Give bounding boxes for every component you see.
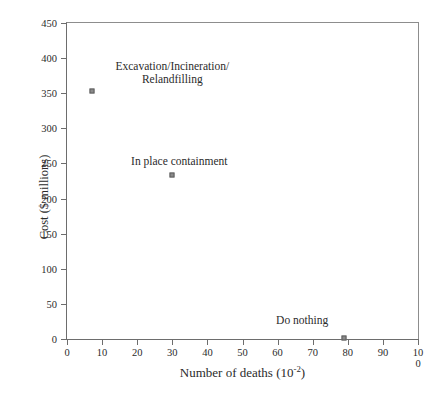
x-tick-mark xyxy=(102,339,103,345)
y-tick-mark: 150 xyxy=(61,234,67,235)
y-tick-label: 150 xyxy=(41,229,57,240)
x-tick-mark xyxy=(207,339,208,345)
x-axis-title-suffix: ) xyxy=(301,365,305,380)
x-axis-title: Number of deaths (10-2) xyxy=(66,365,419,381)
y-tick-mark: 300 xyxy=(61,128,67,129)
y-tick-mark: 250 xyxy=(61,163,67,164)
x-axis-title-exponent: -2 xyxy=(294,364,301,374)
x-tick-mark xyxy=(67,339,68,345)
y-tick-label: 50 xyxy=(47,300,58,311)
x-tick-mark xyxy=(348,339,349,345)
x-tick-mark xyxy=(243,339,244,345)
x-tick-mark xyxy=(278,339,279,345)
data-point-label: Do nothing xyxy=(276,314,328,328)
y-tick-label: 450 xyxy=(41,19,57,30)
x-tick-label: 0 xyxy=(64,347,69,358)
data-point-label: In place containment xyxy=(131,155,227,169)
x-tick-mark xyxy=(313,339,314,345)
x-tick-mark xyxy=(383,339,384,345)
x-tick-mark xyxy=(172,339,173,345)
x-tick-label: 30 xyxy=(167,347,178,358)
y-tick-mark: 50 xyxy=(61,304,67,305)
data-point-marker[interactable] xyxy=(89,89,94,94)
y-tick-label: 350 xyxy=(41,89,57,100)
x-tick-label: 10 xyxy=(97,347,108,358)
x-tick-label: 60 xyxy=(272,347,283,358)
plot-area: 050100150200250300350400450 010203040506… xyxy=(66,22,419,340)
y-tick-mark: 400 xyxy=(61,58,67,59)
x-tick-label: 70 xyxy=(307,347,318,358)
y-tick-mark: 350 xyxy=(61,93,67,94)
data-point-marker[interactable] xyxy=(170,173,175,178)
y-tick-label: 300 xyxy=(41,124,57,135)
y-tick-label: 250 xyxy=(41,159,57,170)
x-tick-label: 50 xyxy=(237,347,248,358)
x-tick-label: 40 xyxy=(202,347,213,358)
x-tick-label: 80 xyxy=(343,347,354,358)
data-point-label: Excavation/Incineration/ Relandfilling xyxy=(115,60,229,87)
x-tick-label: 90 xyxy=(378,347,389,358)
y-tick-label: 200 xyxy=(41,194,57,205)
y-tick-mark: 200 xyxy=(61,199,67,200)
y-tick-label: 400 xyxy=(41,54,57,65)
x-tick-mark xyxy=(418,339,419,345)
y-tick-label: 100 xyxy=(41,265,57,276)
x-axis-title-text: Number of deaths (10 xyxy=(180,365,294,380)
x-tick-label: 20 xyxy=(132,347,143,358)
x-tick-mark xyxy=(137,339,138,345)
y-tick-mark: 100 xyxy=(61,269,67,270)
y-tick-label: 0 xyxy=(52,335,57,346)
y-tick-mark: 450 xyxy=(61,23,67,24)
scatter-chart-figure: Cost ($ millions) 0501001502002503003504… xyxy=(0,0,440,393)
data-point-marker[interactable] xyxy=(342,335,347,340)
